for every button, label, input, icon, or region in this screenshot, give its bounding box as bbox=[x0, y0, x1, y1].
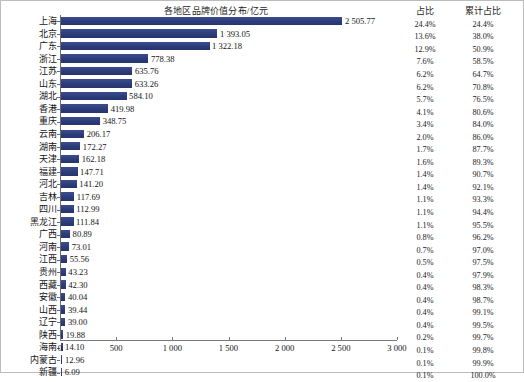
value-tick bbox=[60, 337, 61, 340]
share-value: 0.1% bbox=[401, 346, 449, 355]
category-tick bbox=[57, 147, 60, 148]
cumulative-value: 97.0% bbox=[449, 246, 517, 255]
bar-row: 浙江778.38 bbox=[1, 53, 403, 66]
bar-row: 江苏635.76 bbox=[1, 65, 403, 78]
category-tick bbox=[57, 310, 60, 311]
category-label: 黑龙江 bbox=[1, 216, 57, 229]
share-value: 6.2% bbox=[401, 70, 449, 79]
share-value: 0.1% bbox=[401, 371, 449, 380]
plot-area: 上海2 505.77北京1 393.05广东1 322.18浙江778.38江苏… bbox=[1, 15, 403, 340]
bar-value-label: 633.26 bbox=[135, 78, 159, 91]
cumulative-value: 64.7% bbox=[449, 70, 517, 79]
bar bbox=[61, 67, 132, 75]
percentage-table-row: 0.4%97.9% bbox=[401, 269, 519, 282]
category-label: 重庆 bbox=[1, 115, 57, 128]
percentage-table-row: 1.1%93.3% bbox=[401, 194, 519, 207]
category-tick bbox=[57, 97, 60, 98]
value-tick bbox=[172, 337, 173, 340]
bar-value-label: 42.30 bbox=[68, 279, 87, 292]
bar-row: 重庆348.75 bbox=[1, 115, 403, 128]
bar-value-label: 172.27 bbox=[83, 141, 107, 154]
category-tick bbox=[57, 210, 60, 211]
cumulative-value: 99.7% bbox=[449, 333, 517, 342]
category-label: 吉林 bbox=[1, 191, 57, 204]
category-tick bbox=[57, 373, 60, 374]
category-label: 西藏 bbox=[1, 279, 57, 292]
bar bbox=[61, 255, 67, 263]
category-tick bbox=[57, 84, 60, 85]
category-tick bbox=[57, 159, 60, 160]
bar-row: 西藏42.30 bbox=[1, 279, 403, 292]
bar-row: 福建147.71 bbox=[1, 166, 403, 179]
bar bbox=[61, 192, 74, 200]
percentage-table-row: 0.1%100.0% bbox=[401, 369, 519, 382]
cumulative-value: 58.5% bbox=[449, 57, 517, 66]
percentage-table-row: 6.2%64.7% bbox=[401, 68, 519, 81]
category-label: 河北 bbox=[1, 178, 57, 191]
category-tick bbox=[57, 322, 60, 323]
category-tick bbox=[57, 134, 60, 135]
cumulative-value: 80.6% bbox=[449, 108, 517, 117]
bar bbox=[61, 92, 127, 100]
category-tick bbox=[57, 335, 60, 336]
bar-value-label: 206.17 bbox=[87, 128, 111, 141]
bar-row: 天津162.18 bbox=[1, 153, 403, 166]
bar-row: 河南73.01 bbox=[1, 241, 403, 254]
bar-row: 湖北584.10 bbox=[1, 90, 403, 103]
bar-value-label: 147.71 bbox=[80, 166, 104, 179]
category-label: 辽宁 bbox=[1, 316, 57, 329]
category-tick bbox=[57, 122, 60, 123]
percentage-table-row: 0.1%99.9% bbox=[401, 357, 519, 370]
category-label: 湖南 bbox=[1, 141, 57, 154]
cumulative-value: 92.1% bbox=[449, 183, 517, 192]
bar bbox=[61, 117, 100, 125]
bar-row: 上海2 505.77 bbox=[1, 15, 403, 28]
share-value: 0.1% bbox=[401, 359, 449, 368]
category-tick bbox=[57, 260, 60, 261]
percentage-table-header: 占比 累计占比 bbox=[401, 3, 519, 18]
value-tick-label: 1 500 bbox=[219, 343, 238, 353]
category-label: 江苏 bbox=[1, 65, 57, 78]
category-label: 天津 bbox=[1, 153, 57, 166]
share-value: 1.4% bbox=[401, 183, 449, 192]
category-label: 安徽 bbox=[1, 291, 57, 304]
cumulative-value: 70.8% bbox=[449, 83, 517, 92]
bar-row: 黑龙江111.84 bbox=[1, 216, 403, 229]
bar bbox=[61, 293, 65, 301]
category-label: 广西 bbox=[1, 228, 57, 241]
bar-row: 河北141.20 bbox=[1, 178, 403, 191]
value-tick bbox=[285, 337, 286, 340]
category-tick bbox=[57, 272, 60, 273]
category-label: 广东 bbox=[1, 40, 57, 53]
percentage-table-row: 0.2%99.7% bbox=[401, 332, 519, 345]
value-tick bbox=[229, 337, 230, 340]
value-tick-label: 3 000 bbox=[387, 343, 406, 353]
percentage-table-row: 4.1%80.6% bbox=[401, 106, 519, 119]
percentage-table-row: 3.4%84.0% bbox=[401, 118, 519, 131]
bar-value-label: 55.56 bbox=[70, 253, 89, 266]
percentage-table-row: 5.7%76.5% bbox=[401, 93, 519, 106]
share-value: 0.4% bbox=[401, 271, 449, 280]
bar-row: 四川112.99 bbox=[1, 203, 403, 216]
bar-value-label: 73.01 bbox=[72, 241, 91, 254]
category-label: 浙江 bbox=[1, 53, 57, 66]
cumulative-value: 98.3% bbox=[449, 283, 517, 292]
value-tick bbox=[341, 337, 342, 340]
category-tick bbox=[57, 285, 60, 286]
share-value: 1.1% bbox=[401, 208, 449, 217]
category-tick bbox=[57, 197, 60, 198]
bar bbox=[61, 180, 77, 188]
share-value: 0.4% bbox=[401, 321, 449, 330]
bar-value-label: 778.38 bbox=[151, 53, 175, 66]
percentage-table: 占比 累计占比 24.4%24.4%13.6%38.0%12.9%50.9%7.… bbox=[401, 3, 519, 382]
bar-value-label: 419.98 bbox=[111, 103, 135, 116]
share-value: 4.1% bbox=[401, 108, 449, 117]
share-value: 2.0% bbox=[401, 133, 449, 142]
bar-row: 贵州43.23 bbox=[1, 266, 403, 279]
bar-value-label: 162.18 bbox=[82, 153, 106, 166]
cumulative-value: 90.7% bbox=[449, 170, 517, 179]
bar-value-label: 1 393.05 bbox=[220, 28, 250, 41]
category-label: 贵州 bbox=[1, 266, 57, 279]
bar bbox=[61, 217, 74, 225]
